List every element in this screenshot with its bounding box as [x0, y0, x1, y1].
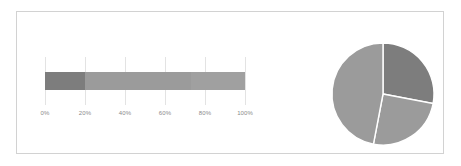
x-tick-label: 80% [199, 110, 211, 116]
chart-frame: 0%20%40%60%80%100% [16, 11, 444, 154]
gridline-100 [245, 57, 246, 105]
x-tick-label: 20% [79, 110, 91, 116]
pie-slice-2 [373, 94, 433, 145]
pie-slice-3 [332, 43, 383, 144]
bar-segment-1 [45, 72, 85, 90]
x-tick-label: 60% [159, 110, 171, 116]
stacked-bar [45, 72, 245, 90]
x-tick-label: 0% [41, 110, 50, 116]
bar-segment-3 [191, 72, 245, 90]
bar-chart: 0%20%40%60%80%100% [45, 57, 255, 127]
x-tick-label: 100% [237, 110, 253, 116]
bar-segment-2 [85, 72, 191, 90]
pie-slices [332, 43, 434, 145]
pie-chart-svg [321, 32, 445, 156]
pie-chart [321, 32, 445, 156]
x-tick-label: 40% [119, 110, 131, 116]
figure-root: 0%20%40%60%80%100% [0, 0, 461, 166]
bar-x-axis: 0%20%40%60%80%100% [45, 105, 245, 125]
pie-slice-1 [383, 43, 434, 104]
